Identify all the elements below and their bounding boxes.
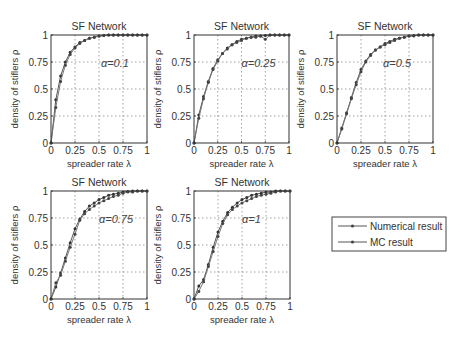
x-tick-label: 0.75 (256, 301, 276, 312)
data-point (403, 36, 406, 39)
legend-label-numerical: Numerical result (370, 221, 442, 232)
data-point (93, 36, 96, 39)
x-tick-label: 1 (144, 301, 150, 312)
y-tick-label: 0.75 (172, 213, 192, 224)
data-point (122, 192, 125, 195)
x-tick-label: 1 (286, 145, 292, 156)
x-tick-label: 0.5 (378, 145, 392, 156)
y-axis-label: density of stiflers ρ (152, 49, 163, 128)
data-point (54, 281, 57, 284)
x-axis-label: spreader rate λ (67, 158, 131, 169)
y-tick-label: 0 (42, 138, 48, 149)
data-point (221, 52, 224, 55)
data-point (241, 198, 244, 201)
data-point (398, 37, 401, 40)
y-tick-label: 0 (185, 138, 191, 149)
x-tick-label: 0.5 (235, 145, 249, 156)
x-tick-label: 0.5 (92, 301, 106, 312)
data-point (78, 219, 81, 222)
data-point (88, 205, 91, 208)
data-point (245, 37, 248, 40)
x-tick-label: 0.5 (235, 301, 249, 312)
data-point (350, 97, 353, 100)
x-axis-label: spreader rate λ (67, 314, 131, 325)
data-point (202, 97, 205, 100)
y-tick-label: 0.25 (29, 267, 49, 278)
data-point (250, 36, 253, 39)
alpha-annotation: α=0.5 (383, 57, 412, 69)
chart-panel: 00.250.50.75100.250.50.751SF Networkspre… (152, 176, 293, 325)
x-tick-label: 0.75 (113, 301, 133, 312)
x-tick-label: 0.75 (399, 145, 419, 156)
y-tick-label: 1 (185, 186, 191, 197)
data-point (98, 198, 101, 201)
figure: 00.250.50.75100.250.50.751SF Networkspre… (0, 0, 460, 343)
data-point (93, 201, 96, 204)
x-tick-label: 0.75 (256, 145, 276, 156)
x-tick-label: 0.5 (92, 145, 106, 156)
x-axis-label: spreader rate λ (210, 158, 274, 169)
y-tick-label: 1 (42, 30, 48, 41)
data-point (54, 106, 57, 109)
data-point (254, 36, 257, 39)
x-tick-label: 0.25 (351, 145, 371, 156)
x-tick-label: 1 (430, 145, 436, 156)
data-point (202, 280, 205, 283)
y-tick-label: 0 (328, 138, 334, 149)
legend-marker-icon (351, 224, 354, 227)
data-point (69, 246, 72, 249)
data-point (231, 208, 234, 211)
data-point (88, 37, 91, 40)
data-point (269, 192, 272, 195)
data-point (360, 70, 363, 73)
y-tick-label: 0.25 (29, 111, 49, 122)
data-point (88, 208, 91, 211)
data-point (112, 195, 115, 198)
y-tick-label: 0.5 (177, 84, 191, 95)
data-point (212, 68, 215, 71)
chart-title: SF Network (72, 20, 128, 32)
chart-panel: 00.250.50.75100.250.50.751SF Networkspre… (9, 20, 150, 169)
data-point (197, 285, 200, 288)
data-point (250, 197, 253, 200)
data-point (255, 195, 258, 198)
data-point (374, 49, 377, 52)
chart-title: SF Network (358, 20, 414, 32)
data-point (74, 47, 77, 50)
data-point (83, 212, 86, 215)
y-tick-label: 0.75 (29, 57, 49, 68)
data-point (264, 38, 267, 41)
data-point (241, 201, 244, 204)
data-point (393, 39, 396, 42)
data-point (216, 59, 219, 62)
x-tick-label: 0 (48, 301, 54, 312)
data-point (59, 80, 62, 83)
y-tick-label: 0 (185, 294, 191, 305)
data-point (236, 201, 239, 204)
data-point (340, 128, 343, 131)
x-tick-label: 0.25 (65, 145, 85, 156)
data-point (236, 205, 239, 208)
data-point (345, 112, 348, 115)
data-point (388, 41, 391, 44)
x-tick-label: 0 (191, 301, 197, 312)
data-point (107, 197, 110, 200)
data-point (98, 201, 101, 204)
chart-panel: 00.250.50.75100.250.50.751SF Networkspre… (9, 176, 150, 325)
data-point (245, 199, 248, 202)
chart-title: SF Network (215, 176, 271, 188)
y-axis-label: density of stiflers ρ (152, 205, 163, 284)
chart-panel: 00.250.50.75100.250.50.751SF Networkspre… (295, 20, 436, 169)
x-axis-label: spreader rate λ (353, 158, 417, 169)
data-point (83, 39, 86, 42)
data-point (107, 194, 110, 197)
y-axis-label: density of stiflers ρ (9, 49, 20, 128)
x-tick-label: 0 (48, 145, 54, 156)
x-tick-label: 1 (287, 301, 293, 312)
data-point (355, 83, 358, 86)
data-point (231, 43, 234, 46)
x-tick-label: 0.25 (208, 301, 228, 312)
x-tick-label: 0.25 (65, 301, 85, 312)
y-tick-label: 1 (185, 30, 191, 41)
y-tick-label: 0.25 (172, 267, 192, 278)
